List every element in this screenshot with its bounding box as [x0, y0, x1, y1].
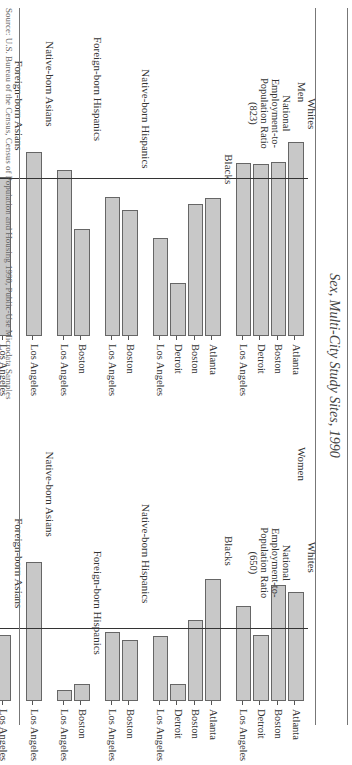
- women-bar: [206, 579, 222, 701]
- women-bar: [254, 635, 270, 701]
- women-category-label: Boston: [274, 709, 285, 765]
- women-category-tick: [32, 701, 33, 705]
- women-bar: [27, 562, 43, 701]
- women-panel: WomenAtlantaBostonDetroitLos AngelesWhit…: [0, 365, 352, 730]
- women-category-label: Detroit: [256, 709, 267, 765]
- men-group-title: Whites: [306, 98, 318, 129]
- women-category-label: Boston: [191, 709, 202, 765]
- bottom-rule: [19, 8, 20, 725]
- women-category-tick: [2, 701, 3, 705]
- source-note: Source: U.S. Bureau of the Census, Censu…: [4, 8, 14, 399]
- men-category-tick: [159, 336, 160, 340]
- men-bar: [271, 162, 287, 336]
- men-category-tick: [32, 336, 33, 340]
- men-category-tick: [176, 336, 177, 340]
- men-category-tick: [128, 336, 129, 340]
- women-group-title: Foreign-born Hispanics: [92, 551, 104, 655]
- women-category-label: Atlanta: [208, 709, 219, 765]
- women-group-title: Whites: [306, 542, 318, 573]
- women-bar: [0, 635, 12, 701]
- women-group-title: Native-born Hispanics: [140, 504, 152, 603]
- men-reference-line: [0, 178, 308, 179]
- men-bar: [236, 163, 252, 336]
- men-category-tick: [80, 336, 81, 340]
- men-bar: [153, 238, 169, 336]
- women-reference-line: [0, 628, 308, 629]
- women-category-tick: [259, 701, 260, 705]
- women-bar: [236, 606, 252, 701]
- women-category-tick: [211, 701, 212, 705]
- women-category-label: Boston: [77, 709, 88, 765]
- women-category-tick: [277, 701, 278, 705]
- women-category-tick: [63, 701, 64, 705]
- women-category-tick: [111, 701, 112, 705]
- women-category-tick: [176, 701, 177, 705]
- men-bar: [188, 204, 204, 336]
- women-bar: [153, 636, 169, 701]
- men-category-tick: [111, 336, 112, 340]
- men-bar: [123, 210, 139, 336]
- men-group-title: Native-born Hispanics: [140, 69, 152, 168]
- men-category-tick: [2, 336, 3, 340]
- women-category-tick: [128, 701, 129, 705]
- women-category-label: Los Angeles: [239, 709, 250, 765]
- men-bar: [171, 283, 187, 336]
- men-group-title: Foreign-born Hispanics: [92, 37, 104, 141]
- men-reference-annotation: NationalEmployment-to-Population Ratio(8…: [248, 58, 292, 168]
- men-category-tick: [194, 336, 195, 340]
- women-category-label: Detroit: [173, 709, 184, 765]
- men-bar: [206, 198, 222, 336]
- women-category-label: Los Angeles: [108, 709, 119, 765]
- men-bar: [57, 170, 73, 336]
- men-category-tick: [259, 336, 260, 340]
- women-bar: [171, 684, 187, 701]
- women-bar: [75, 684, 91, 701]
- men-category-tick: [277, 336, 278, 340]
- women-category-tick: [194, 701, 195, 705]
- men-group-title: Blacks: [223, 154, 235, 184]
- women-category-label: Los Angeles: [0, 709, 10, 765]
- men-bar: [27, 152, 43, 336]
- men-bar: [105, 197, 121, 336]
- men-group-title: Native-born Asians: [44, 41, 56, 126]
- men-panel: MenAtlantaBostonDetroitLos AngelesWhites…: [0, 0, 352, 365]
- women-category-label: Atlanta: [291, 709, 302, 765]
- women-group-title: Blacks: [223, 536, 235, 566]
- men-bar: [254, 164, 270, 336]
- women-bar: [123, 640, 139, 701]
- women-bar: [57, 690, 73, 701]
- women-bar: [105, 632, 121, 701]
- men-category-tick: [294, 336, 295, 340]
- women-group-title: Native-born Asians: [44, 452, 56, 537]
- men-category-tick: [211, 336, 212, 340]
- women-bar: [188, 620, 204, 701]
- women-reference-annotation: NationalEmployment-to-Population Ratio(6…: [248, 508, 292, 618]
- men-category-tick: [242, 336, 243, 340]
- women-category-label: Los Angeles: [156, 709, 167, 765]
- women-category-tick: [80, 701, 81, 705]
- women-category-tick: [294, 701, 295, 705]
- women-category-label: Los Angeles: [60, 709, 71, 765]
- women-category-label: Los Angeles: [29, 709, 40, 765]
- women-category-tick: [242, 701, 243, 705]
- men-category-tick: [63, 336, 64, 340]
- women-category-label: Boston: [125, 709, 136, 765]
- women-category-tick: [159, 701, 160, 705]
- women-panel-title: Women: [296, 447, 308, 481]
- men-bar: [75, 229, 91, 336]
- men-bar: [289, 142, 305, 336]
